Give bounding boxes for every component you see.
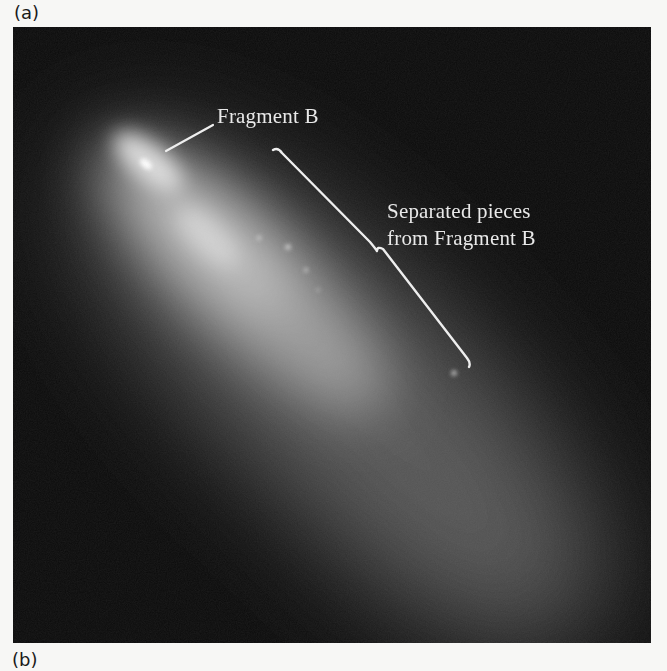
comet-photo: Fragment B Separated pieces from Fragmen…: [13, 27, 651, 643]
separated-pieces-label: Separated pieces from Fragment B: [387, 198, 536, 252]
panel-label-a: (a): [14, 4, 39, 22]
panel-label-b: (b): [12, 651, 37, 669]
separated-pieces-line2: from Fragment B: [387, 225, 536, 252]
comet-glow-image: [13, 27, 651, 643]
separated-pieces-line1: Separated pieces: [387, 198, 536, 225]
fragment-b-label: Fragment B: [217, 103, 319, 130]
